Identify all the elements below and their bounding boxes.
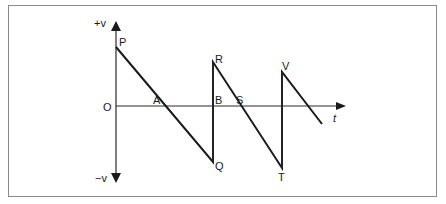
t-axis-label: t [333, 112, 337, 124]
point-p-label: P [119, 36, 126, 48]
point-v-label: V [282, 60, 290, 72]
origin-label: O [103, 101, 112, 113]
point-q-label: Q [215, 160, 224, 172]
point-t-label: T [278, 171, 285, 183]
v-axis-down-arrow-icon [111, 173, 121, 183]
t-axis-arrow-icon [336, 102, 346, 110]
point-b-label: B [215, 94, 222, 106]
sawtooth-line [116, 47, 322, 168]
point-s-label: S [236, 94, 243, 106]
point-a-label: A [153, 94, 161, 106]
y-top-label: +v [94, 17, 106, 29]
y-bottom-label: −v [95, 172, 107, 184]
velocity-time-graph: +v −v O t P A Q B R S T V [0, 0, 446, 204]
point-r-label: R [215, 53, 223, 65]
v-axis-up-arrow-icon [111, 21, 121, 31]
